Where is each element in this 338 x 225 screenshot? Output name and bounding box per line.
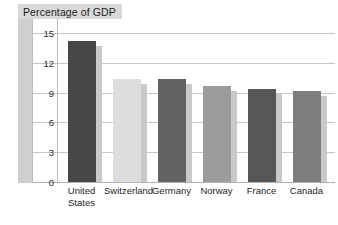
bar-body — [68, 41, 96, 182]
bar-body — [248, 89, 276, 182]
x-axis-tick-canada: Canada — [284, 185, 329, 197]
bar-body — [113, 79, 141, 182]
x-axis-labels: United StatesSwitzerlandGermanyNorwayFra… — [33, 185, 335, 221]
x-axis-tick-germany: Germany — [149, 185, 194, 197]
bar-canada[interactable] — [293, 91, 321, 182]
bar-norway[interactable] — [203, 86, 231, 182]
chart-title-text: Percentage of GDP — [23, 6, 116, 18]
chart-title: Percentage of GDP — [18, 4, 122, 19]
bar-switzerland[interactable] — [113, 79, 141, 182]
axis-wall-band — [18, 19, 32, 183]
bar-united-states[interactable] — [68, 41, 96, 182]
bars — [33, 19, 335, 183]
x-axis-tick-norway: Norway — [194, 185, 239, 197]
chart-screenshot: 15129630 United StatesSwitzerlandGermany… — [0, 0, 338, 225]
bar-body — [293, 91, 321, 182]
x-axis-tick-switzerland: Switzerland — [104, 185, 149, 197]
x-axis-tick-france: France — [239, 185, 284, 197]
x-axis-tick-united-states: United States — [59, 185, 104, 208]
bar-france[interactable] — [248, 89, 276, 182]
bar-body — [158, 79, 186, 182]
bar-germany[interactable] — [158, 79, 186, 182]
bar-body — [203, 86, 231, 182]
